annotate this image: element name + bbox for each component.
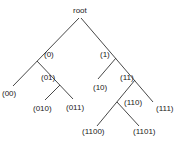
node-011: (011) <box>66 104 84 112</box>
node-0: (0) <box>44 51 54 59</box>
node-110: (110) <box>124 99 142 107</box>
node-00: (00) <box>2 90 16 98</box>
node-10: (10) <box>93 84 107 92</box>
tree-edges <box>0 0 180 144</box>
node-1: (1) <box>100 51 110 59</box>
node-11: (11) <box>120 74 134 82</box>
node-01: (01) <box>41 74 55 82</box>
node-1101: (1101) <box>133 128 156 136</box>
node-root: root <box>73 7 87 15</box>
node-1100: (1100) <box>82 128 105 136</box>
node-111: (111) <box>156 105 174 113</box>
node-010: (010) <box>33 105 52 113</box>
tree-diagram: root (0) (1) (00) (01) (10) (11) (010) (… <box>0 0 180 144</box>
